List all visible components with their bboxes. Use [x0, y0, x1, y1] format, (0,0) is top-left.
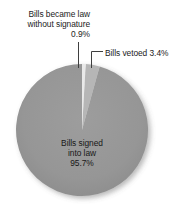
slice-label-vetoed: Bills vetoed 3.4% [105, 48, 168, 58]
slice-label-signed-value: 95.7% [22, 158, 142, 168]
slice-label-no-signature: Bills became law without signature 0.9% [0, 9, 90, 39]
pie-chart: Bills became law without signature 0.9% … [0, 0, 190, 205]
slice-label-no-signature-value: 0.9% [0, 29, 90, 39]
slice-label-signed: Bills signed into law 95.7% [22, 138, 142, 168]
slice-label-signed-line1: Bills signed [22, 138, 142, 148]
pie-body [16, 64, 148, 196]
slice-label-no-signature-line2: without signature [0, 19, 90, 29]
slice-label-vetoed-text: Bills vetoed 3.4% [105, 48, 168, 58]
slice-label-signed-line2: into law [22, 148, 142, 158]
slice-label-no-signature-line1: Bills became law [0, 9, 90, 19]
